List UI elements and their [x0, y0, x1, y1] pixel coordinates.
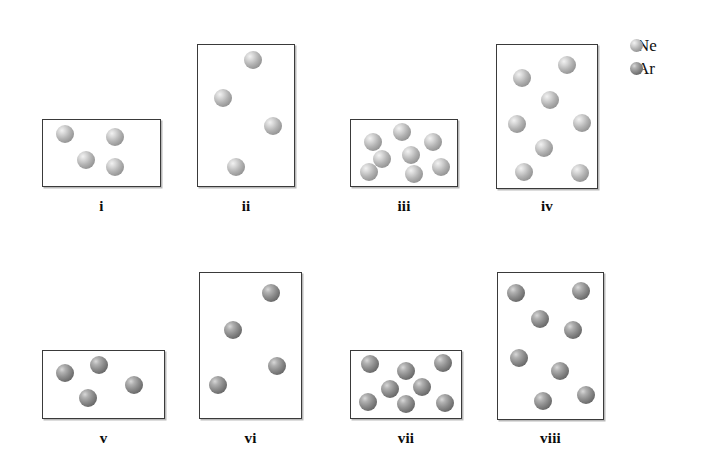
- particle-ne: [513, 69, 531, 87]
- gas-legend: NeAr: [630, 34, 706, 80]
- particle-ar: [572, 282, 590, 300]
- particle-ar: [262, 284, 280, 302]
- particle-ar: [209, 376, 227, 394]
- particle-ne: [405, 165, 423, 183]
- container-box-viii: [497, 272, 604, 420]
- particle-ar: [56, 364, 74, 382]
- particle-ne: [508, 115, 526, 133]
- particle-ar: [125, 376, 143, 394]
- container-box-vi: [199, 272, 302, 419]
- particle-ne: [424, 133, 442, 151]
- container-v: v: [42, 350, 165, 419]
- particle-ar: [359, 393, 377, 411]
- particle-ar: [531, 310, 549, 328]
- container-box-ii: [197, 44, 295, 187]
- particle-ar: [507, 284, 525, 302]
- particle-ne: [402, 146, 420, 164]
- particle-ne: [244, 51, 262, 69]
- legend-item-ar: Ar: [630, 57, 706, 80]
- container-ii: ii: [197, 44, 295, 187]
- particle-ne: [571, 164, 589, 182]
- particle-ar: [79, 389, 97, 407]
- container-iv: iv: [496, 44, 598, 189]
- container-i: i: [42, 119, 161, 187]
- particle-ne: [264, 117, 282, 135]
- container-label-vi: vi: [199, 430, 302, 447]
- container-box-v: [42, 350, 165, 419]
- particle-ne: [558, 56, 576, 74]
- particle-ne: [227, 158, 245, 176]
- gas-container-figure: iiiiiiivvviviiviii NeAr: [0, 0, 710, 471]
- particle-ar: [268, 357, 286, 375]
- particle-ne: [364, 133, 382, 151]
- particle-ne: [214, 89, 232, 107]
- particle-ar: [551, 362, 569, 380]
- particle-ne: [106, 158, 124, 176]
- legend-swatch-ar-icon: [630, 62, 643, 75]
- particle-ar: [397, 395, 415, 413]
- legend-item-ne: Ne: [630, 34, 706, 57]
- legend-swatch-ne-icon: [630, 39, 643, 52]
- particle-ar: [564, 321, 582, 339]
- particle-ne: [77, 151, 95, 169]
- particle-ar: [434, 354, 452, 372]
- container-label-v: v: [42, 430, 165, 447]
- particle-ar: [224, 321, 242, 339]
- container-label-vii: vii: [350, 430, 462, 447]
- container-vii: vii: [350, 350, 462, 419]
- particle-ne: [360, 163, 378, 181]
- particle-ne: [541, 91, 559, 109]
- container-label-viii: viii: [497, 430, 604, 447]
- particle-ar: [397, 362, 415, 380]
- container-label-iii: iii: [350, 198, 458, 215]
- container-box-vii: [350, 350, 462, 419]
- particle-ar: [577, 386, 595, 404]
- particle-ar: [361, 355, 379, 373]
- particle-ar: [510, 349, 528, 367]
- particle-ar: [90, 356, 108, 374]
- particle-ne: [106, 128, 124, 146]
- particle-ne: [515, 163, 533, 181]
- container-box-i: [42, 119, 161, 187]
- container-viii: viii: [497, 272, 604, 420]
- container-iii: iii: [350, 119, 458, 187]
- particle-ne: [573, 114, 591, 132]
- particle-ne: [432, 158, 450, 176]
- particle-ne: [393, 123, 411, 141]
- container-label-ii: ii: [197, 198, 295, 215]
- particle-ne: [56, 125, 74, 143]
- particle-ar: [413, 378, 431, 396]
- particle-ne: [535, 139, 553, 157]
- particle-ar: [534, 392, 552, 410]
- container-box-iii: [350, 119, 458, 187]
- container-label-i: i: [42, 198, 161, 215]
- container-vi: vi: [199, 272, 302, 419]
- particle-ar: [436, 394, 454, 412]
- container-label-iv: iv: [496, 198, 598, 215]
- container-box-iv: [496, 44, 598, 189]
- particle-ar: [381, 380, 399, 398]
